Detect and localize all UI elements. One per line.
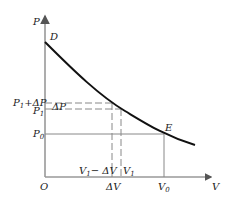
- v1-label: V1: [123, 165, 135, 178]
- pv-curve: [45, 42, 195, 145]
- x-axis-label: V: [212, 181, 221, 192]
- v0-label: V0: [158, 181, 170, 194]
- point-d-label: D: [49, 31, 58, 42]
- delta-p-label: ΔP: [51, 101, 66, 112]
- point-e-label: E: [164, 122, 173, 133]
- p0-label: P0: [32, 128, 45, 141]
- pv-diagram: P V O D E P1+ΔP P1 P0 ΔP V1− ΔV V1 ΔV V0: [0, 0, 225, 201]
- y-axis-label: P: [32, 16, 40, 27]
- origin-label: O: [40, 181, 48, 192]
- p1-plus-dp-label: P1+ΔP: [12, 97, 47, 110]
- v1-minus-dv-label: V1− ΔV: [79, 165, 118, 178]
- delta-v-label: ΔV: [105, 181, 122, 192]
